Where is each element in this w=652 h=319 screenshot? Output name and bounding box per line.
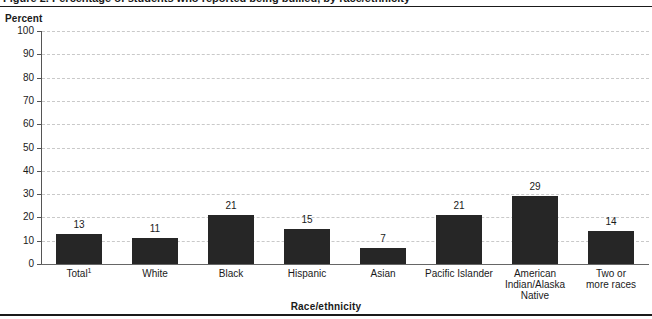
x-axis-label: White [117,268,193,279]
y-tick-label-90: 90 [4,49,34,59]
x-axis-label: Hispanic [269,268,345,279]
bar-value-label: 21 [211,201,251,211]
gridline-70 [42,101,649,102]
gridline-80 [42,78,649,79]
x-axis-label: AmericanIndian/AlaskaNative [497,268,573,301]
bar-value-label: 15 [287,215,327,225]
bar [436,215,482,264]
bar [360,248,406,264]
plot-area: 0102030405060708090100 131121157212914 [41,31,649,265]
x-axis-label: Two ormore races [573,268,649,290]
gridline-40 [42,171,649,172]
bottom-divider [0,314,652,316]
x-axis-label: Asian [345,268,421,279]
gridline-90 [42,54,649,55]
bar-value-label: 21 [439,201,479,211]
y-tick-mark-40 [37,171,41,172]
y-tick-label-70: 70 [4,96,34,106]
x-axis-label: Pacific Islander [421,268,497,279]
y-tick-mark-50 [37,148,41,149]
y-tick-label-50: 50 [4,143,34,153]
y-tick-label-40: 40 [4,166,34,176]
footnote-marker: 1 [88,267,92,274]
gridline-60 [42,124,649,125]
y-tick-mark-0 [37,264,41,265]
x-axis-label: Black [193,268,269,279]
x-axis-title: Race/ethnicity [0,301,652,312]
x-axis-label: Total1 [41,268,117,279]
y-tick-mark-70 [37,101,41,102]
y-tick-label-0: 0 [4,259,34,269]
bar [208,215,254,264]
y-tick-mark-100 [37,31,41,32]
gridline-50 [42,148,649,149]
y-tick-label-10: 10 [4,236,34,246]
bar [284,229,330,264]
y-tick-label-30: 30 [4,189,34,199]
bar [56,234,102,264]
bar-value-label: 14 [591,217,631,227]
y-tick-mark-20 [37,217,41,218]
x-axis-line [40,264,649,265]
bar-value-label: 7 [363,234,403,244]
gridline-30 [42,194,649,195]
title-divider [0,6,652,7]
bar-value-label: 29 [515,182,555,192]
bar [588,231,634,264]
bar-value-label: 13 [59,220,99,230]
y-tick-mark-80 [37,78,41,79]
bar [132,238,178,264]
figure-title: Figure 2. Percentage of students who rep… [3,0,410,4]
bar-value-label: 11 [135,224,175,234]
y-tick-mark-10 [37,241,41,242]
y-tick-label-20: 20 [4,212,34,222]
y-tick-mark-90 [37,54,41,55]
bar [512,196,558,264]
y-axis-title: Percent [5,13,42,24]
y-tick-mark-60 [37,124,41,125]
gridline-100 [42,31,649,32]
y-tick-mark-30 [37,194,41,195]
y-tick-label-80: 80 [4,73,34,83]
y-tick-label-100: 100 [4,26,34,36]
y-tick-label-60: 60 [4,119,34,129]
